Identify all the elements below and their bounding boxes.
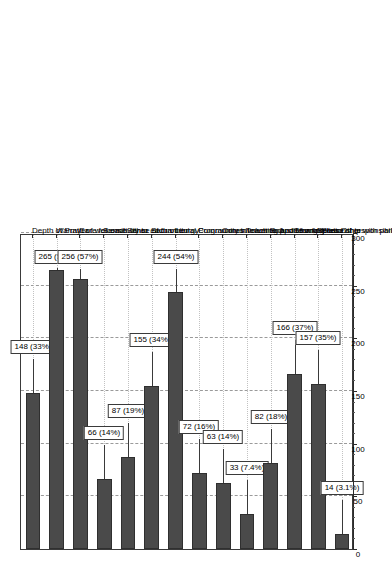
bar [335, 534, 350, 549]
value-minor-tick [353, 307, 355, 308]
value-tick-label: 150 [351, 392, 364, 401]
label-leader-line [80, 269, 81, 279]
value-tick-label: 200 [351, 339, 364, 348]
label-leader-line [57, 268, 58, 270]
bar-group: 256 (57%) [69, 235, 93, 549]
bar [287, 374, 302, 549]
value-minor-tick [353, 454, 355, 455]
value-minor-tick [353, 254, 355, 255]
bar-group: 148 (33%) [21, 235, 45, 549]
bar-series: 148 (33%)265 (59%)256 (57%)66 (14%)87 (1… [21, 235, 352, 549]
value-minor-tick [353, 412, 355, 413]
value-minor-tick [353, 370, 355, 371]
bar [121, 457, 136, 549]
value-minor-tick [353, 402, 355, 403]
value-minor-tick [353, 265, 355, 266]
bar-group: 63 (14%) [211, 235, 235, 549]
value-minor-tick [353, 486, 355, 487]
value-tick-label: 250 [351, 287, 364, 296]
bar-chart: 148 (33%)265 (59%)256 (57%)66 (14%)87 (1… [0, 0, 392, 566]
label-leader-line [104, 445, 105, 479]
label-leader-line [33, 359, 34, 393]
bar-group: 166 (37%) [283, 235, 307, 549]
category-tick [56, 234, 57, 238]
value-tick-label: 100 [351, 445, 364, 454]
bar-group: 157 (35%) [306, 235, 330, 549]
bar [49, 270, 64, 549]
category-label: Other [341, 226, 361, 235]
value-minor-tick [353, 433, 355, 434]
category-tick [103, 234, 104, 238]
label-leader-line [128, 423, 129, 457]
bar-group: 66 (14%) [92, 235, 116, 549]
value-minor-tick [353, 296, 355, 297]
bar [192, 473, 207, 549]
category-tick [294, 234, 295, 238]
label-leader-line [152, 352, 153, 386]
rotated-chart-wrapper: 148 (33%)265 (59%)256 (57%)66 (14%)87 (1… [0, 0, 392, 566]
label-leader-line [176, 269, 177, 292]
value-minor-tick [353, 359, 355, 360]
category-tick [246, 234, 247, 238]
category-tick [175, 234, 176, 238]
bar [216, 483, 231, 549]
label-leader-line [318, 350, 319, 384]
label-leader-line [247, 480, 248, 514]
category-axis: Depth of PrayerWarmth of welcomeCare for… [20, 2, 353, 234]
value-minor-tick [353, 507, 355, 508]
category-label: Liturgy [175, 226, 199, 235]
plot-area: 148 (33%)265 (59%)256 (57%)66 (14%)87 (1… [20, 234, 353, 550]
category-tick [127, 234, 128, 238]
label-leader-line [342, 500, 343, 534]
value-axis: 050100150200250300 [353, 234, 379, 550]
bar [97, 479, 112, 549]
value-tick-label: 0 [356, 550, 360, 559]
label-leader-line [295, 340, 296, 374]
value-minor-tick [353, 244, 355, 245]
category-tick [341, 234, 342, 238]
label-leader-line [199, 439, 200, 473]
bar-group: 33 (7.4%) [235, 235, 259, 549]
category-tick [79, 234, 80, 238]
category-tick [270, 234, 271, 238]
value-minor-tick [353, 528, 355, 529]
bar-group: 155 (34%) [140, 235, 164, 549]
value-minor-tick [353, 317, 355, 318]
bar [26, 393, 41, 549]
category-tick [151, 234, 152, 238]
value-minor-tick [353, 380, 355, 381]
bar [240, 514, 255, 549]
category-tick [317, 234, 318, 238]
value-minor-tick [353, 465, 355, 466]
label-leader-line [271, 429, 272, 463]
bar-group: 82 (18%) [259, 235, 283, 549]
value-minor-tick [353, 349, 355, 350]
value-minor-tick [353, 538, 355, 539]
bar-group: 244 (54%) [164, 235, 188, 549]
bar [144, 386, 159, 549]
value-minor-tick [353, 517, 355, 518]
bar [263, 463, 278, 549]
value-minor-tick [353, 423, 355, 424]
bar-group: 265 (59%) [45, 235, 69, 549]
bar-group: 87 (19%) [116, 235, 140, 549]
value-tick-label: 50 [354, 497, 363, 506]
value-minor-tick [353, 328, 355, 329]
bar [311, 384, 326, 549]
value-minor-tick [353, 475, 355, 476]
bar-group: 72 (16%) [188, 235, 212, 549]
label-leader-line [223, 449, 224, 483]
value-tick-label: 300 [351, 234, 364, 243]
category-tick [198, 234, 199, 238]
category-tick [222, 234, 223, 238]
value-minor-tick [353, 275, 355, 276]
category-tick [32, 234, 33, 238]
bar [73, 279, 88, 549]
